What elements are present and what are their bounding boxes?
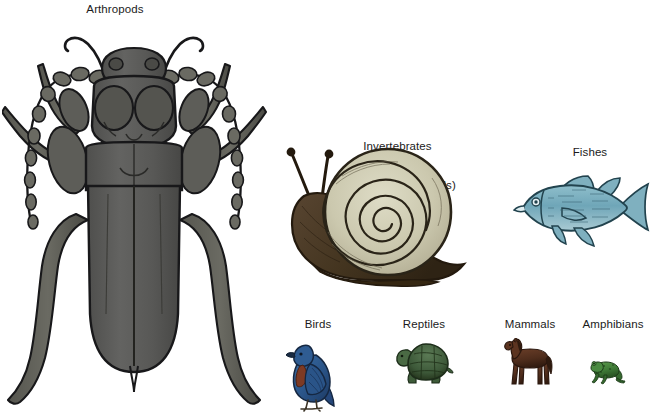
label-reptiles: Reptiles [386, 318, 462, 331]
label-birds: Birds [288, 318, 348, 331]
horse-illustration [500, 338, 554, 388]
label-amphibians: Amphibians [570, 318, 656, 331]
bird-illustration [286, 334, 352, 412]
snail-illustration [276, 140, 472, 292]
beetle-illustration [2, 14, 268, 414]
label-mammals: Mammals [492, 318, 568, 331]
fish-illustration [512, 168, 652, 248]
tortoise-illustration [392, 336, 454, 386]
label-fishes: Fishes [555, 146, 625, 159]
frog-illustration [588, 356, 628, 386]
figure-canvas: Arthropods Invertebrates (excluding arth… [0, 0, 668, 414]
